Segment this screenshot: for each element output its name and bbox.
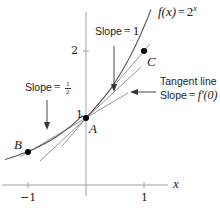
slope-half-fraction: 12 xyxy=(65,81,71,96)
tangent-slope-prefix: Slope xyxy=(160,89,187,101)
tangent-slope-label: Slope=f′(0) xyxy=(160,89,218,101)
function-label: f(x)=2x xyxy=(158,5,197,18)
y-tick-label-one: 1 xyxy=(76,109,83,120)
fraction-denominator: 2 xyxy=(66,89,70,96)
arrow-tangent xyxy=(130,89,156,95)
slope-one-value: 1 xyxy=(133,25,140,38)
function-lhs: f(x) xyxy=(158,4,176,19)
arrow-slope-one xyxy=(111,46,117,92)
fraction-numerator: 1 xyxy=(66,81,70,88)
tangent-slope-value: f′(0) xyxy=(198,88,218,102)
y-tick-label-two: 2 xyxy=(71,45,78,56)
point-b-label: B xyxy=(14,138,22,151)
slope-half-label: Slope=12 xyxy=(25,81,71,96)
tangent-line-label: Tangent line xyxy=(160,76,217,87)
exponential-secant-tangent-diagram: f(x)=2x Slope=1 Slope=12 Tangent line Sl… xyxy=(0,0,220,210)
x-tick-label-minus-one: −1 xyxy=(20,192,36,203)
function-exponent: x xyxy=(193,4,197,13)
slope-half-prefix: Slope xyxy=(25,81,52,93)
slope-one-prefix: Slope xyxy=(95,25,122,37)
x-axis-label: x xyxy=(173,177,179,190)
point-c-label: C xyxy=(147,55,156,68)
slope-one-label: Slope=1 xyxy=(95,25,140,37)
point-a-label: A xyxy=(89,122,97,135)
arrow-slope-half xyxy=(44,100,50,130)
function-equals: = xyxy=(178,5,185,19)
point-b xyxy=(25,149,31,155)
x-tick-label-one: 1 xyxy=(141,192,148,203)
tangent-slope-eq: = xyxy=(189,88,196,102)
slope-one-eq: = xyxy=(124,24,131,38)
slope-half-eq: = xyxy=(54,80,61,94)
